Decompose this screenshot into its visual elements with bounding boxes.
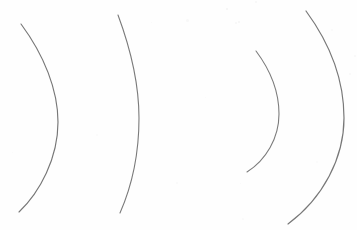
arc-4	[288, 11, 344, 224]
arc-1	[19, 24, 58, 212]
arc-2	[118, 15, 139, 213]
arc-drawing	[0, 0, 357, 230]
arc-3	[247, 51, 279, 172]
arc-figure-canvas	[0, 0, 357, 230]
arc-group	[19, 11, 344, 224]
